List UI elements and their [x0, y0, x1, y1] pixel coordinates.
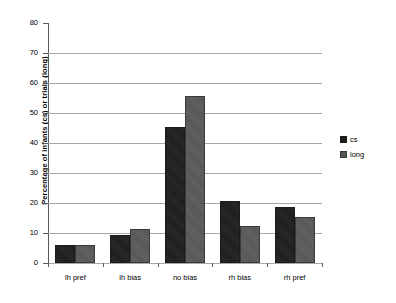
legend: cs long [340, 133, 364, 163]
x-tick-0 [48, 263, 49, 267]
legend-label-long: long [350, 151, 364, 159]
bar-no-bias-long [185, 96, 205, 263]
x-tick-3 [212, 263, 213, 267]
bar-chart: Percentage of infants (cs) or trials (lo… [0, 0, 396, 303]
x-tick-end [322, 263, 323, 267]
y-tick-label-70: 70 [0, 49, 38, 57]
legend-item-long[interactable]: long [340, 148, 364, 161]
x-category-label-lh-bias: lh bias [103, 273, 158, 282]
x-category-label-rh-bias: rh bias [212, 273, 267, 282]
plot-area [48, 23, 322, 263]
bar-lh-bias-cs [110, 235, 130, 263]
y-tick-label-60: 60 [0, 79, 38, 87]
bar-rh-bias-long [240, 226, 260, 263]
x-category-label-lh-pref: lh pref [48, 273, 103, 282]
legend-item-cs[interactable]: cs [340, 133, 364, 146]
x-tick-2 [158, 263, 159, 267]
y-tick-label-10: 10 [0, 229, 38, 237]
legend-swatch-cs-icon [340, 136, 347, 143]
x-tick-4 [267, 263, 268, 267]
y-tick-label-30: 30 [0, 169, 38, 177]
bar-lh-bias-long [130, 229, 150, 263]
x-category-label-no-bias: no bias [158, 273, 213, 282]
bar-rh-pref-cs [275, 207, 295, 263]
bar-lh-pref-long [75, 245, 95, 263]
y-tick-label-80: 80 [0, 19, 38, 27]
y-tick-label-50: 50 [0, 109, 38, 117]
y-tick-label-40: 40 [0, 139, 38, 147]
legend-swatch-long-icon [340, 151, 347, 158]
y-tick-label-20: 20 [0, 199, 38, 207]
x-tick-1 [103, 263, 104, 267]
y-tick-label-0: 0 [0, 259, 38, 267]
legend-label-cs: cs [350, 136, 358, 144]
gridline-0 [48, 263, 322, 264]
bar-rh-bias-cs [220, 201, 240, 263]
x-category-label-rh-pref: rh pref [267, 273, 322, 282]
bar-rh-pref-long [295, 217, 315, 263]
bar-lh-pref-cs [55, 245, 75, 263]
bar-no-bias-cs [165, 127, 185, 263]
